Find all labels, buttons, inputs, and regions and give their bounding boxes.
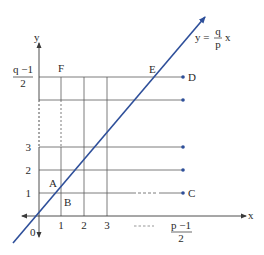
dot-row-2 bbox=[181, 98, 185, 102]
x-end-label-numerator: p −1 bbox=[171, 219, 191, 231]
x-tick-2: 2 bbox=[81, 219, 87, 231]
point-label-D: D bbox=[188, 71, 196, 83]
point-labels: A B C D E F bbox=[49, 62, 196, 208]
lattice-diagram: y = q p x y x 0 1 2 3 q −1 2 1 2 3 p −1 … bbox=[0, 0, 264, 255]
y-axis-label: y bbox=[34, 31, 40, 43]
point-label-A: A bbox=[49, 177, 57, 189]
axes bbox=[22, 43, 246, 237]
point-label-B: B bbox=[64, 196, 71, 208]
dot-row-4 bbox=[181, 168, 185, 172]
y-tick-labels: 1 2 3 q −1 2 bbox=[13, 63, 33, 199]
point-label-E: E bbox=[149, 63, 156, 75]
y-tick-1: 1 bbox=[26, 187, 32, 199]
equation-denominator: p bbox=[215, 38, 221, 50]
y-tick-2: 2 bbox=[26, 164, 32, 176]
y-tick-3: 3 bbox=[26, 141, 32, 153]
y-end-label-denominator: 2 bbox=[20, 77, 26, 89]
point-label-F: F bbox=[58, 62, 64, 74]
origin-label: 0 bbox=[30, 226, 36, 238]
dot-C bbox=[181, 191, 185, 195]
dot-row-3 bbox=[181, 145, 185, 149]
equation-numerator: q bbox=[215, 25, 221, 37]
x-tick-1: 1 bbox=[58, 219, 64, 231]
x-axis-label: x bbox=[248, 209, 254, 221]
x-tick-labels: 1 2 3 p −1 2 bbox=[58, 219, 192, 244]
equation-lhs: y = bbox=[195, 31, 209, 43]
x-end-label-denominator: 2 bbox=[178, 232, 184, 244]
y-end-label-numerator: q −1 bbox=[13, 63, 33, 75]
endpoint-dots bbox=[181, 75, 185, 195]
equation-variable: x bbox=[225, 31, 231, 43]
line-equation-label: y = q p x bbox=[195, 25, 231, 50]
x-tick-3: 3 bbox=[104, 219, 110, 231]
line-y-equals-q-over-p-x bbox=[13, 17, 205, 243]
point-label-C: C bbox=[188, 187, 195, 199]
dot-D bbox=[181, 75, 185, 79]
